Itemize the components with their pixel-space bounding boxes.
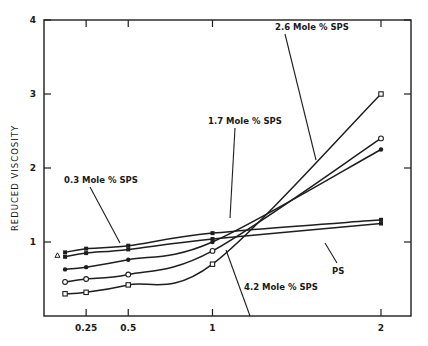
series-annotation-label: 4.2 Mole % SPS bbox=[244, 282, 318, 292]
series-annotation-label: 0.3 Mole % SPS bbox=[64, 175, 138, 185]
x-tick-label: 0.25 bbox=[75, 323, 97, 333]
data-point-open-circle bbox=[126, 272, 131, 277]
plot-frame bbox=[44, 20, 411, 316]
data-point-filled-square bbox=[126, 247, 130, 251]
data-point-filled-circle bbox=[63, 267, 67, 271]
series-line bbox=[65, 220, 381, 253]
series-annotation-label: PS bbox=[332, 266, 344, 276]
data-point-open-circle bbox=[84, 277, 89, 282]
series-annotation-label: 2.6 Mole % SPS bbox=[275, 22, 349, 32]
data-point-open-circle bbox=[379, 136, 384, 141]
data-point-filled-square bbox=[63, 250, 67, 254]
y-tick-label: 1 bbox=[30, 237, 36, 247]
x-tick-label: 2 bbox=[378, 323, 384, 333]
y-tick-label: 2 bbox=[30, 163, 36, 173]
data-point-open-square bbox=[84, 290, 88, 294]
annotation-leader bbox=[325, 243, 337, 263]
data-point-filled-square bbox=[84, 251, 88, 255]
x-tick-label: 1 bbox=[209, 323, 215, 333]
data-point-open-square bbox=[210, 262, 214, 266]
series-annotation-label: 1.7 Mole % SPS bbox=[208, 116, 282, 126]
data-point-filled-circle bbox=[379, 147, 383, 151]
annotation-leader bbox=[285, 34, 316, 160]
data-point-filled-circle bbox=[126, 258, 130, 262]
data-point-filled-circle bbox=[84, 265, 88, 269]
data-point-filled-square bbox=[84, 247, 88, 251]
data-point-open-square bbox=[63, 292, 67, 296]
data-point-filled-square bbox=[379, 218, 383, 222]
data-point-filled-square bbox=[126, 244, 130, 248]
data-point-open-square bbox=[126, 283, 130, 287]
y-tick-label: 3 bbox=[30, 89, 36, 99]
data-point-filled-square bbox=[63, 255, 67, 259]
data-point-open-circle bbox=[210, 248, 215, 253]
annotation-leader bbox=[230, 128, 235, 218]
annotation-leader bbox=[90, 187, 120, 243]
y-axis-label: REDUCED VISCOSITY bbox=[10, 125, 20, 231]
data-point-filled-square bbox=[379, 222, 383, 226]
data-point-triangle bbox=[55, 253, 60, 258]
series-line bbox=[65, 138, 381, 282]
data-point-filled-circle bbox=[210, 240, 214, 244]
chart-canvas: 12340.250.512REDUCED VISCOSITY2.6 Mole %… bbox=[0, 0, 428, 346]
data-point-open-square bbox=[379, 92, 383, 96]
reduced-viscosity-chart: 12340.250.512REDUCED VISCOSITY2.6 Mole %… bbox=[0, 0, 428, 346]
data-point-filled-square bbox=[211, 231, 215, 235]
x-tick-label: 0.5 bbox=[120, 323, 136, 333]
data-point-open-circle bbox=[63, 280, 68, 285]
y-tick-label: 4 bbox=[30, 15, 36, 25]
